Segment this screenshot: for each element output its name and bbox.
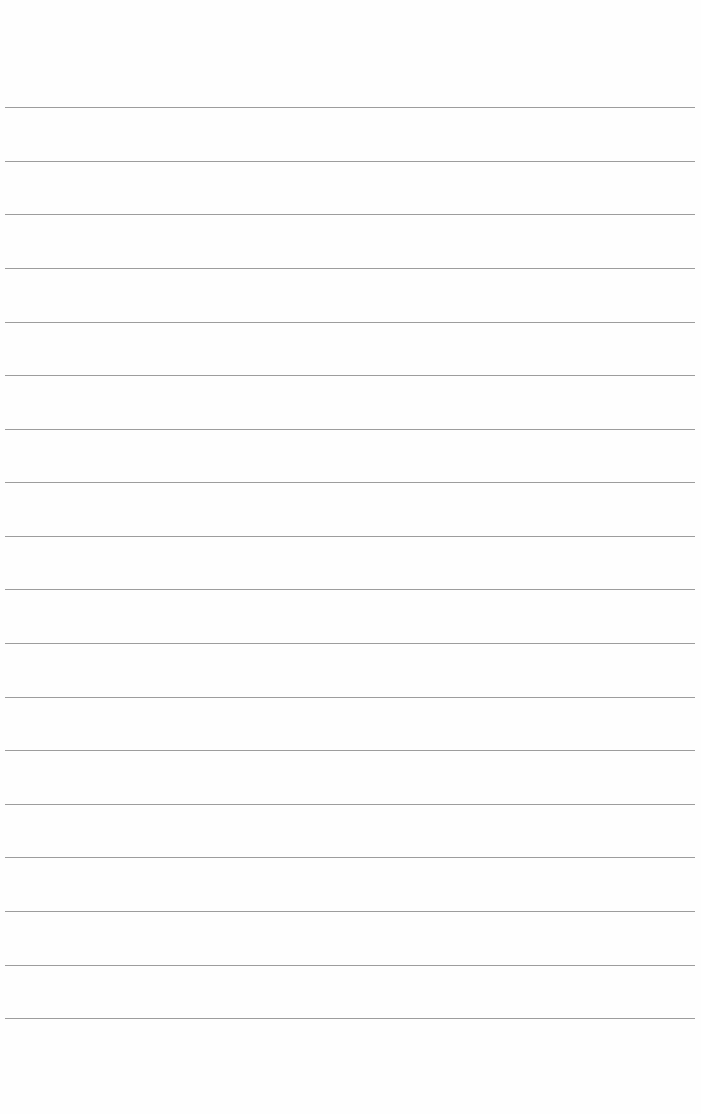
ruled-line [5,268,695,269]
lined-paper-page [0,0,701,1114]
ruled-line [5,965,695,966]
ruled-line [5,214,695,215]
ruled-line [5,429,695,430]
ruled-line [5,911,695,912]
ruled-line [5,857,695,858]
ruled-line [5,161,695,162]
ruled-line [5,1018,695,1019]
ruled-line [5,322,695,323]
ruled-line [5,750,695,751]
ruled-line [5,643,695,644]
ruled-line [5,536,695,537]
ruled-line [5,804,695,805]
ruled-line [5,482,695,483]
ruled-line [5,589,695,590]
ruled-line [5,107,695,108]
ruled-line [5,375,695,376]
ruled-line [5,697,695,698]
